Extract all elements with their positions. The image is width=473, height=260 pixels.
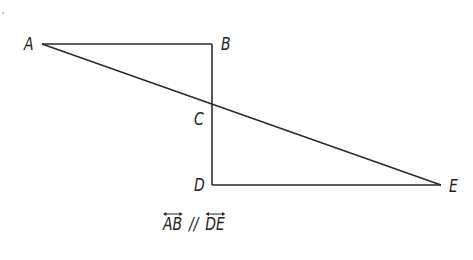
double-arrow-icon (163, 211, 183, 217)
point-label-b: B (221, 36, 231, 53)
point-label-a: A (24, 36, 34, 53)
double-arrow-icon (205, 211, 225, 217)
point-label-e: E (449, 178, 458, 195)
line-de-notation: DE (205, 214, 225, 234)
parallel-caption: AB // DE (163, 214, 225, 234)
line-de-text: DE (205, 214, 225, 234)
line-ab-text: AB (163, 214, 182, 234)
segment-ae (42, 44, 441, 185)
line-ab-notation: AB (163, 214, 182, 234)
point-label-d: D (194, 177, 205, 194)
parallel-symbol: // (189, 214, 198, 234)
geometry-figure (0, 0, 473, 260)
point-label-c: C (194, 111, 204, 128)
stray-mark (2, 12, 4, 14)
